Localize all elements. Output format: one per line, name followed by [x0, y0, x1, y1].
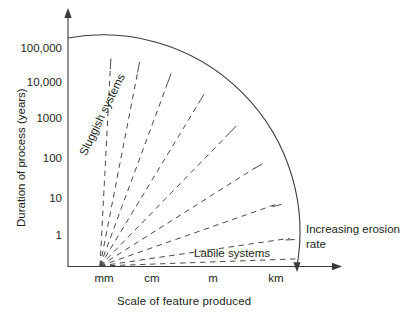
y-axis: [64, 8, 71, 267]
y-tick-label-10: 10: [0, 192, 62, 204]
x-tick-label-cm: cm: [144, 272, 159, 284]
ray-4: [100, 103, 199, 266]
y-tick-label-1: 1: [0, 229, 62, 241]
chart-figure: Duration of process (years) 100,000 10,0…: [0, 0, 419, 319]
x-tick-label-km: km: [268, 272, 283, 284]
y-tick-label-10000: 10,000: [0, 76, 62, 88]
ray-9: [100, 259, 296, 266]
y-axis-arrowhead: [64, 8, 71, 18]
x-axis: [68, 263, 342, 270]
y-tick-label-100: 100: [0, 152, 62, 164]
erosion-line-1: Increasing erosion: [306, 222, 400, 237]
x-tick-label-mm: mm: [94, 272, 113, 284]
annotation-labile-systems: Labile systems: [194, 247, 270, 259]
y-tick-label-100000: 100,000: [0, 42, 62, 54]
arc-tick-marks: [110, 58, 294, 240]
x-axis-arrowhead: [332, 263, 342, 270]
arc-end-arrowhead: [293, 262, 300, 272]
erosion-line-2: rate: [306, 237, 400, 252]
x-tick-label-m: m: [208, 272, 218, 284]
boundary-arc: [68, 35, 301, 272]
x-axis-title: Scale of feature produced: [117, 295, 251, 307]
y-tick-label-1000: 1000: [0, 112, 62, 124]
annotation-increasing-erosion-rate: Increasing erosion rate: [306, 222, 400, 252]
radial-dashed-rays: [100, 69, 296, 266]
